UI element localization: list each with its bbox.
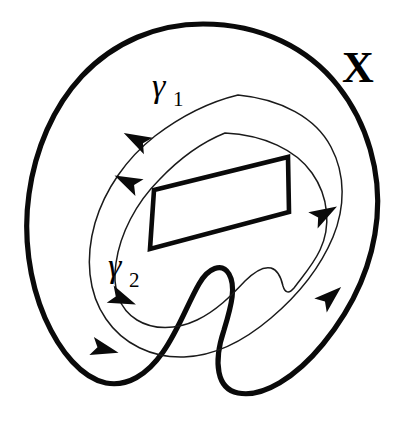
gamma-2-subscript: 2 (129, 268, 140, 292)
figure-canvas: X γ 1 γ 2 (0, 0, 409, 431)
gamma-2-symbol: γ (108, 247, 123, 284)
gamma-1-label: γ 1 (152, 67, 184, 111)
arrowhead-layer (89, 125, 347, 362)
gamma-1-arrow-lower-left (89, 337, 120, 362)
gamma-1-subscript: 1 (173, 87, 184, 111)
topology-diagram: X γ 1 γ 2 (0, 0, 409, 431)
gamma-1-symbol: γ (152, 67, 167, 104)
hole-quadrilateral-path (150, 157, 289, 249)
gamma-1-arrow-upper-left (119, 125, 152, 154)
gamma-2-label: γ 2 (108, 247, 140, 292)
gamma-1-arrow-right (314, 280, 347, 312)
gamma-2-arrow-upper-left (110, 167, 143, 196)
space-label-x: X (342, 43, 374, 92)
